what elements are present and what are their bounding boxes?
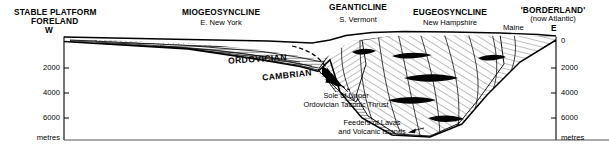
- axis-right: [551, 37, 556, 141]
- region-label-geanticline-line2: S. Vermont: [339, 16, 377, 24]
- region-label-geanticline-line1: GEANTICLINE: [329, 3, 387, 12]
- annotation-taconic-thrust-line2: Ordovician Taconic Thrust: [303, 101, 388, 109]
- axis-left-unit: metres: [18, 134, 60, 142]
- region-label-eugeosyncline-line1: EUGEOSYNCLINE: [413, 8, 487, 17]
- direction-label-west: W: [45, 26, 53, 35]
- direction-label-east: E: [551, 24, 557, 33]
- geological-cross-section-figure: STABLE PLATFORM FORELAND W MIOGEOSYNCLIN…: [0, 0, 609, 154]
- axis-right-tick-6000: 6000: [561, 114, 578, 122]
- axis-left-tick-4000: 4000: [26, 89, 60, 97]
- region-label-miogeosyncline-line2: E. New York: [200, 19, 241, 27]
- axis-left: [64, 37, 69, 141]
- annotation-lava-feeders-line2: and Volcanic Islands: [338, 128, 405, 136]
- axis-right-unit: metres: [561, 134, 584, 142]
- region-label-eugeosyncline-line2: New Hampshire: [423, 19, 477, 27]
- locality-label-maine: Maine: [503, 24, 524, 32]
- region-label-miogeosyncline-line1: MIOGEOSYNCLINE: [182, 8, 260, 17]
- axis-right-tick-4000: 4000: [561, 89, 578, 97]
- region-label-stable-platform-line2: FORELAND: [31, 17, 78, 26]
- axis-right-tick-2000: 2000: [561, 64, 578, 72]
- axis-right-tick-0: 0: [561, 37, 565, 45]
- axis-left-tick-2000: 2000: [26, 64, 60, 72]
- basin-fill: [60, 30, 570, 142]
- axis-left-tick-6000: 6000: [26, 114, 60, 122]
- region-label-borderland-line2: (now Atlantic): [530, 15, 576, 23]
